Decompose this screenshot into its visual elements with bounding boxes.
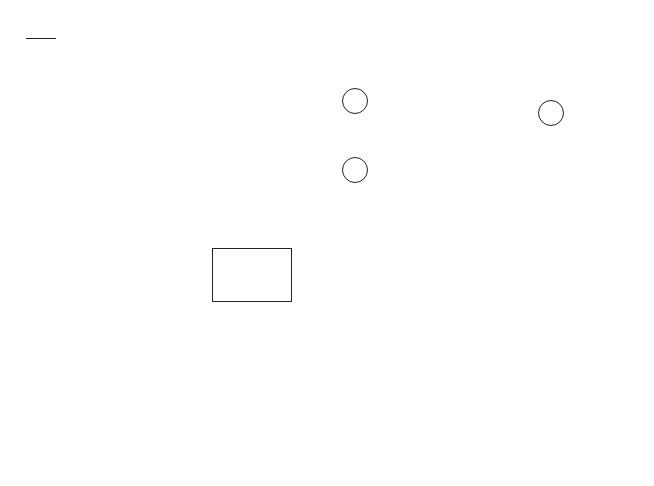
curve-label-1a [342,157,368,183]
curve-label-1b [342,88,368,114]
chart-canvas [0,0,654,486]
curve-label-2 [538,100,564,126]
sphere-legend-box [212,248,292,302]
